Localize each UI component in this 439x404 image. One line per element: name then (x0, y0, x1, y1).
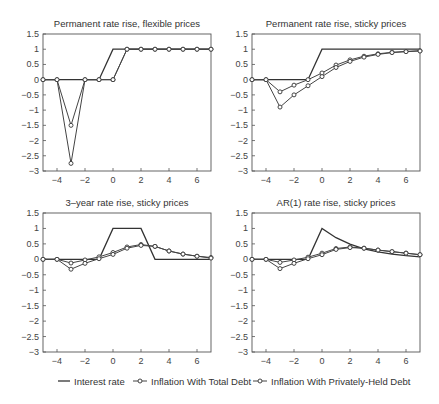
marker-inflation-with-privately-held-debt (83, 261, 87, 265)
x-tick-label: −2 (289, 356, 299, 366)
plot-area (252, 213, 420, 352)
y-tick-label: −1.5 (21, 301, 39, 311)
marker-inflation-with-privately-held-debt (362, 55, 366, 59)
marker-inflation-with-privately-held-debt (181, 47, 185, 51)
marker-inflation-with-privately-held-debt (362, 246, 366, 250)
x-tick-label: 6 (403, 175, 408, 185)
x-tick-label: 0 (110, 356, 115, 366)
marker-inflation-with-privately-held-debt (418, 49, 422, 53)
marker-inflation-with-privately-held-debt (139, 47, 143, 51)
y-tick-label: −3 (29, 347, 39, 357)
y-tick-label: 1 (243, 223, 248, 233)
y-tick-label: 0.5 (235, 59, 248, 69)
marker-inflation-with-privately-held-debt (320, 75, 324, 79)
marker-inflation-with-privately-held-debt (111, 78, 115, 82)
x-tick-label: 6 (403, 356, 408, 366)
marker-inflation-with-privately-held-debt (167, 47, 171, 51)
marker-inflation-with-privately-held-debt (97, 78, 101, 82)
y-tick-label: −1 (238, 285, 248, 295)
figure: Permanent rate rise, flexible prices1.51… (0, 0, 439, 404)
x-tick-label: 4 (375, 175, 380, 185)
marker-inflation-with-privately-held-debt (250, 257, 254, 261)
marker-inflation-with-privately-held-debt (404, 50, 408, 54)
y-tick-label: −2.5 (21, 332, 39, 342)
x-tick-label: −4 (52, 175, 62, 185)
x-tick-label: −2 (80, 356, 90, 366)
series-inflation-with-total-debt (252, 51, 420, 92)
y-tick-label: −2 (238, 136, 248, 146)
legend-private-debt-marker-icon (258, 379, 262, 383)
x-tick-label: 4 (166, 175, 171, 185)
marker-inflation-with-privately-held-debt (125, 246, 129, 250)
marker-inflation-with-privately-held-debt (69, 161, 73, 165)
marker-inflation-with-privately-held-debt (320, 253, 324, 257)
x-tick-label: −2 (289, 175, 299, 185)
y-tick-label: −3 (238, 347, 248, 357)
y-tick-label: −2 (29, 316, 39, 326)
y-tick-label: −0.5 (21, 270, 39, 280)
marker-inflation-with-privately-held-debt (153, 47, 157, 51)
marker-inflation-with-privately-held-debt (404, 251, 408, 255)
y-tick-label: 0.5 (26, 59, 39, 69)
marker-inflation-with-privately-held-debt (41, 257, 45, 261)
marker-inflation-with-privately-held-debt (181, 252, 185, 256)
chart-panel-ar-1-rate-rise-sticky-prices: AR(1) rate rise, sticky prices1.510.50−0… (230, 197, 422, 366)
y-tick-label: 0 (34, 254, 39, 264)
marker-inflation-with-total-debt (278, 260, 282, 264)
y-tick-label: 1 (243, 44, 248, 54)
y-tick-label: −2.5 (230, 332, 248, 342)
marker-inflation-with-privately-held-debt (292, 93, 296, 97)
x-tick-label: 2 (138, 175, 143, 185)
x-tick-label: 0 (319, 175, 324, 185)
y-tick-label: −2 (238, 316, 248, 326)
chart-title: AR(1) rate rise, sticky prices (277, 197, 396, 208)
marker-inflation-with-privately-held-debt (306, 257, 310, 261)
marker-inflation-with-privately-held-debt (97, 257, 101, 261)
x-tick-label: 4 (375, 356, 380, 366)
marker-inflation-with-privately-held-debt (292, 261, 296, 265)
series-interest-rate (252, 228, 420, 259)
y-tick-label: −0.5 (230, 270, 248, 280)
marker-inflation-with-privately-held-debt (334, 247, 338, 251)
x-tick-label: 0 (319, 356, 324, 366)
series-inflation-with-total-debt (43, 49, 211, 125)
legend-private-debt-label: Inflation With Privately-Held Debt (271, 376, 411, 387)
x-tick-label: −4 (52, 356, 62, 366)
marker-inflation-with-privately-held-debt (83, 78, 87, 82)
marker-inflation-with-total-debt (278, 90, 282, 94)
chart-title: Permanent rate rise, sticky prices (266, 18, 407, 29)
marker-inflation-with-privately-held-debt (209, 47, 213, 51)
y-tick-label: −1 (29, 285, 39, 295)
marker-inflation-with-privately-held-debt (167, 249, 171, 253)
marker-inflation-with-privately-held-debt (209, 256, 213, 260)
x-tick-label: 2 (347, 175, 352, 185)
marker-inflation-with-privately-held-debt (55, 78, 59, 82)
y-tick-label: −1.5 (21, 120, 39, 130)
y-tick-label: −2.5 (230, 151, 248, 161)
y-tick-label: 0 (34, 75, 39, 85)
chart-title: Permanent rate rise, flexible prices (54, 18, 201, 29)
y-tick-label: 0.5 (26, 239, 39, 249)
plot-area (43, 213, 211, 352)
marker-inflation-with-privately-held-debt (195, 47, 199, 51)
marker-inflation-with-privately-held-debt (69, 267, 73, 271)
x-tick-label: 2 (347, 356, 352, 366)
x-tick-label: 6 (194, 175, 199, 185)
marker-inflation-with-privately-held-debt (125, 47, 129, 51)
y-tick-label: −0.5 (230, 90, 248, 100)
y-tick-label: 0.5 (235, 239, 248, 249)
marker-inflation-with-privately-held-debt (41, 78, 45, 82)
marker-inflation-with-privately-held-debt (139, 243, 143, 247)
marker-inflation-with-privately-held-debt (55, 257, 59, 261)
marker-inflation-with-privately-held-debt (111, 252, 115, 256)
y-tick-label: 1.5 (235, 29, 248, 39)
marker-inflation-with-privately-held-debt (153, 244, 157, 248)
marker-inflation-with-privately-held-debt (376, 52, 380, 56)
marker-inflation-with-privately-held-debt (418, 253, 422, 257)
legend-total-debt-marker-icon (138, 379, 142, 383)
y-tick-label: 0 (243, 75, 248, 85)
plot-area (43, 34, 211, 171)
x-tick-label: −4 (261, 175, 271, 185)
chart-panel-permanent-rate-rise-sticky-prices: Permanent rate rise, sticky prices1.510.… (230, 18, 422, 185)
marker-inflation-with-privately-held-debt (264, 78, 268, 82)
